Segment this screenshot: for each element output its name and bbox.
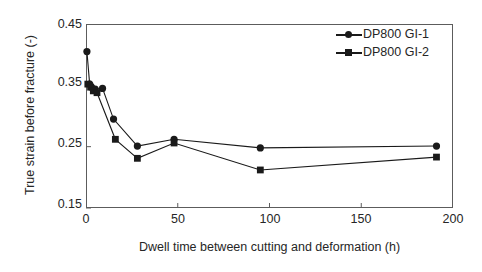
x-tick-label-150: 150 <box>341 212 381 226</box>
x-tick-label-0: 0 <box>66 212 106 226</box>
legend-item-dp800-gi-1: DP800 GI-1 <box>336 27 429 42</box>
y-tick-label-025: 0.25 <box>48 137 82 149</box>
legend-label-dp800-gi-1: DP800 GI-1 <box>363 28 429 41</box>
x-axis-title: Dwell time between cutting and deformati… <box>86 240 453 254</box>
y-tick-label-045: 0.45 <box>48 18 82 30</box>
legend-marker-square-icon <box>336 47 362 59</box>
y-axis-title: True strain before fracture (-) <box>23 15 37 215</box>
y-tick-label-035: 0.35 <box>48 76 82 88</box>
legend-marker-circle-icon <box>336 29 362 41</box>
x-tick-label-200: 200 <box>433 212 473 226</box>
chart-figure: 0.45 0.35 0.25 0.15 0 50 100 150 200 Dwe… <box>0 0 482 272</box>
legend-label-dp800-gi-2: DP800 GI-2 <box>363 46 429 59</box>
legend-item-dp800-gi-2: DP800 GI-2 <box>336 45 429 60</box>
chart-legend: DP800 GI-1 DP800 GI-2 <box>336 27 429 60</box>
x-tick-label-100: 100 <box>250 212 290 226</box>
y-tick-label-015: 0.15 <box>48 198 82 210</box>
y-axis-tick-labels: 0.45 0.35 0.25 0.15 <box>44 0 82 272</box>
x-tick-label-50: 50 <box>158 212 198 226</box>
